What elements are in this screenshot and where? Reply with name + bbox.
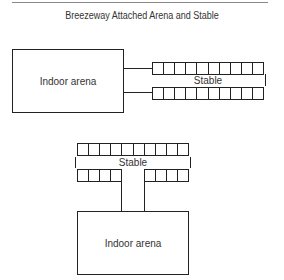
stall — [186, 88, 197, 100]
stable-label-1: Stable — [194, 75, 223, 86]
stall-row-bottom-right-2 — [145, 170, 189, 182]
stall — [186, 63, 197, 75]
stall — [175, 63, 186, 75]
stall-row-bottom-1 — [153, 88, 264, 100]
stall — [167, 170, 178, 182]
stall — [208, 88, 219, 100]
stall — [230, 88, 241, 100]
stall — [153, 63, 164, 75]
stall — [208, 63, 219, 75]
diagram-canvas: Indoor arena Stable Stable Indoor arena — [0, 0, 284, 280]
stall — [78, 144, 89, 156]
arena-label-1: Indoor arena — [40, 76, 97, 87]
stall — [252, 63, 263, 75]
stall — [219, 88, 230, 100]
stall — [197, 88, 208, 100]
stall — [230, 63, 241, 75]
stall — [166, 144, 177, 156]
stall — [89, 144, 100, 156]
stall — [241, 63, 252, 75]
stall — [111, 170, 122, 182]
stall — [197, 63, 208, 75]
stall — [78, 170, 89, 182]
stall — [175, 88, 186, 100]
stall — [89, 170, 100, 182]
stall — [252, 88, 263, 100]
stall — [111, 144, 122, 156]
stall — [144, 144, 155, 156]
stall-row-bottom-left-2 — [78, 170, 122, 182]
stall — [100, 170, 111, 182]
stall — [241, 88, 252, 100]
stall — [100, 144, 111, 156]
stall — [164, 88, 175, 100]
stall — [155, 144, 166, 156]
stall — [153, 88, 164, 100]
arena-label-2: Indoor arena — [105, 238, 162, 249]
stall — [177, 144, 188, 156]
stall — [122, 144, 133, 156]
stall — [219, 63, 230, 75]
stall-row-top-2 — [78, 144, 189, 156]
stall — [156, 170, 167, 182]
stall — [164, 63, 175, 75]
stall — [178, 170, 189, 182]
stable-label-2: Stable — [119, 157, 148, 168]
stall — [145, 170, 156, 182]
stall-row-top-1 — [153, 63, 264, 75]
stall — [133, 144, 144, 156]
